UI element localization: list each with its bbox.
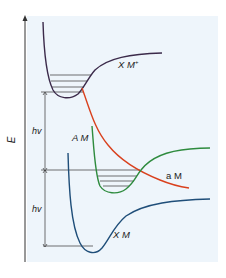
label-a-m: a M xyxy=(166,170,182,181)
hv-label-lower: hv xyxy=(32,204,42,214)
axis-arrow-icon xyxy=(23,15,28,21)
hv-label-upper: hv xyxy=(32,126,42,136)
energy-axis xyxy=(23,15,28,262)
energy-axis-label: E xyxy=(6,136,17,143)
label-xm: X M xyxy=(112,229,130,240)
label-am: A M xyxy=(71,132,89,143)
diagram-panel xyxy=(27,16,218,262)
potential-energy-diagram: E hv hv X M+ A M a M xyxy=(0,0,226,278)
